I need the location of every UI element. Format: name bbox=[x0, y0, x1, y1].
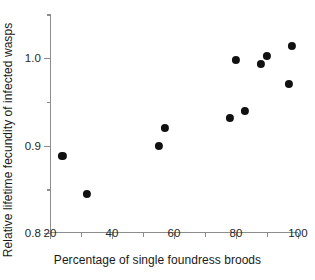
data-point bbox=[226, 113, 234, 121]
data-point bbox=[263, 52, 271, 60]
x-tick-label: 100 bbox=[288, 227, 308, 239]
data-point bbox=[232, 56, 240, 64]
x-tick-minor bbox=[81, 233, 82, 237]
x-tick-minor bbox=[143, 233, 144, 237]
x-tick-minor bbox=[205, 233, 206, 237]
x-axis-title: Percentage of single foundress broods bbox=[0, 253, 315, 267]
scatter-plot-figure: 20406080100 0.80.91.0 Percentage of sing… bbox=[0, 0, 315, 280]
data-point bbox=[257, 60, 265, 68]
data-point bbox=[285, 80, 293, 88]
y-tick-label: 0.9 bbox=[25, 140, 41, 152]
x-tick-label: 80 bbox=[230, 227, 243, 239]
y-tick-label: 1.0 bbox=[25, 52, 41, 64]
x-tick-label: 40 bbox=[106, 227, 119, 239]
x-tick-label: 20 bbox=[44, 227, 57, 239]
y-axis-line bbox=[50, 14, 51, 233]
y-tick-minor bbox=[47, 102, 51, 103]
data-point bbox=[161, 124, 169, 132]
data-point bbox=[58, 152, 66, 160]
data-point bbox=[288, 42, 296, 50]
y-tick-label: 0.8 bbox=[25, 227, 41, 239]
data-point bbox=[83, 190, 91, 198]
x-tick-label: 60 bbox=[168, 227, 181, 239]
data-point bbox=[241, 106, 249, 114]
y-tick-minor bbox=[47, 189, 51, 190]
x-tick-minor bbox=[267, 233, 268, 237]
y-tick-minor bbox=[47, 14, 51, 15]
y-axis-title: Relative lifetime fecundity of infected … bbox=[0, 0, 16, 280]
y-tick-major bbox=[44, 58, 50, 59]
data-point bbox=[154, 141, 162, 149]
plot-area bbox=[50, 14, 298, 233]
y-tick-major bbox=[44, 146, 50, 147]
